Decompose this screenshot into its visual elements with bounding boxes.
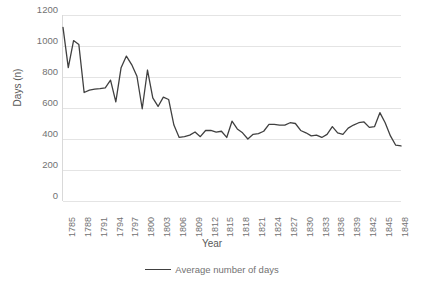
- y-axis-tick-labels: 120010008006004002000: [24, 10, 58, 202]
- gridline-0: [63, 201, 401, 202]
- x-tick-label-1848: 1848: [400, 217, 410, 237]
- y-tick-label-1000: 1000: [24, 36, 58, 46]
- x-tick-label-1815: 1815: [225, 217, 235, 237]
- y-tick-label-1200: 1200: [24, 5, 58, 15]
- legend-line-swatch-icon: [145, 269, 171, 270]
- x-tick-label-1824: 1824: [273, 217, 283, 237]
- x-tick-label-1806: 1806: [178, 217, 188, 237]
- x-tick-label-1842: 1842: [368, 217, 378, 237]
- x-tick-label-1785: 1785: [67, 217, 77, 237]
- y-tick-label-800: 800: [24, 67, 58, 77]
- y-tick-label-0: 0: [24, 191, 58, 201]
- y-tick-label-400: 400: [24, 129, 58, 139]
- x-axis-title: Year: [0, 238, 424, 249]
- data-line: [63, 27, 401, 146]
- x-tick-label-1845: 1845: [384, 217, 394, 237]
- plot-area: [63, 15, 401, 201]
- x-tick-label-1788: 1788: [83, 217, 93, 237]
- series-line-average-number-of-days: [63, 15, 401, 201]
- x-tick-label-1827: 1827: [289, 217, 299, 237]
- x-tick-label-1836: 1836: [336, 217, 346, 237]
- y-tick-label-600: 600: [24, 98, 58, 108]
- x-tick-label-1791: 1791: [99, 217, 109, 237]
- x-tick-label-1797: 1797: [130, 217, 140, 237]
- x-tick-label-1830: 1830: [305, 217, 315, 237]
- x-tick-label-1812: 1812: [210, 217, 220, 237]
- x-tick-label-1803: 1803: [162, 217, 172, 237]
- x-tick-label-1839: 1839: [352, 217, 362, 237]
- chart-legend: Average number of days: [0, 264, 424, 275]
- x-tick-label-1800: 1800: [146, 217, 156, 237]
- y-axis-title: Days (n): [12, 43, 23, 133]
- y-tick-label-200: 200: [24, 160, 58, 170]
- x-tick-label-1821: 1821: [257, 217, 267, 237]
- line-chart: Days (n) 120010008006004002000 178517881…: [0, 0, 424, 287]
- x-tick-label-1794: 1794: [115, 217, 125, 237]
- legend-item-label: Average number of days: [175, 264, 278, 275]
- x-axis-tick-labels: 1785178817911794179718001803180618091812…: [63, 203, 401, 239]
- legend-item-average-number-of-days: Average number of days: [145, 264, 278, 275]
- x-tick-label-1833: 1833: [321, 217, 331, 237]
- x-tick-label-1818: 1818: [241, 217, 251, 237]
- x-tick-label-1809: 1809: [194, 217, 204, 237]
